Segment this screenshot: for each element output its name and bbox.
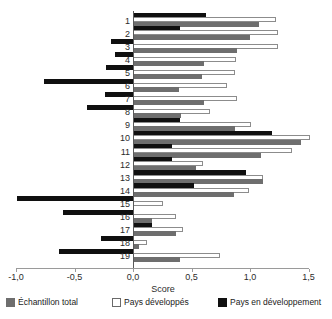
category-label-10: 10 <box>108 134 130 143</box>
bar--chantillon-total-7 <box>133 100 204 105</box>
legend-swatch-icon-dev <box>112 298 121 307</box>
category-label-13: 13 <box>108 174 130 183</box>
legend-swatch-icon-total <box>6 298 15 307</box>
bar--chantillon-total-2 <box>133 35 250 40</box>
category-label-11: 11 <box>108 148 130 157</box>
legend-item-dev: Pays développés <box>112 296 189 308</box>
category-label-19: 19 <box>108 252 130 261</box>
chart-legend: Échantillon totalPays développésPays en … <box>6 296 332 310</box>
category-label-14: 14 <box>108 187 130 196</box>
bar--chantillon-total-4 <box>133 61 204 66</box>
x-tick-label: 0,5 <box>172 273 212 282</box>
bar--chantillon-total-19 <box>133 257 180 262</box>
x-tick-label: 0,0 <box>113 273 153 282</box>
category-label-2: 2 <box>108 30 130 39</box>
bar--chantillon-total-17 <box>133 231 176 236</box>
category-label-17: 17 <box>108 226 130 235</box>
category-label-7: 7 <box>108 95 130 104</box>
bar-pays-d-velopp-s-15 <box>133 201 163 206</box>
legend-swatch-icon-devg <box>218 298 227 307</box>
bar--chantillon-total-6 <box>133 87 179 92</box>
category-label-1: 1 <box>108 17 130 26</box>
category-label-18: 18 <box>108 239 130 248</box>
x-tick-label: 1,0 <box>230 273 270 282</box>
category-label-4: 4 <box>108 56 130 65</box>
plot-area: 12345678910111213141516171819 <box>0 0 332 268</box>
x-axis-label: Score <box>133 285 193 294</box>
bar--chantillon-total-5 <box>133 74 202 79</box>
category-label-6: 6 <box>108 82 130 91</box>
x-tick-label: 1,5 <box>289 273 329 282</box>
category-label-8: 8 <box>108 108 130 117</box>
bar--chantillon-total-14 <box>133 192 234 197</box>
x-tick-label: -0,5 <box>55 273 95 282</box>
x-axis-line <box>16 268 309 269</box>
category-label-5: 5 <box>108 69 130 78</box>
legend-item-devg: Pays en développement <box>218 296 321 308</box>
category-label-9: 9 <box>108 121 130 130</box>
bar-chart: 12345678910111213141516171819 -1,0-0,50,… <box>0 0 332 319</box>
category-label-3: 3 <box>108 43 130 52</box>
bar--chantillon-total-3 <box>133 48 237 53</box>
legend-label: Échantillon total <box>18 298 78 307</box>
legend-label: Pays développés <box>124 298 189 307</box>
x-tick-label: -1,0 <box>0 273 36 282</box>
legend-label: Pays en développement <box>230 298 321 307</box>
legend-item-total: Échantillon total <box>6 296 78 308</box>
category-label-12: 12 <box>108 161 130 170</box>
category-label-15: 15 <box>108 200 130 209</box>
category-label-16: 16 <box>108 213 130 222</box>
zero-axis-line <box>133 11 134 268</box>
